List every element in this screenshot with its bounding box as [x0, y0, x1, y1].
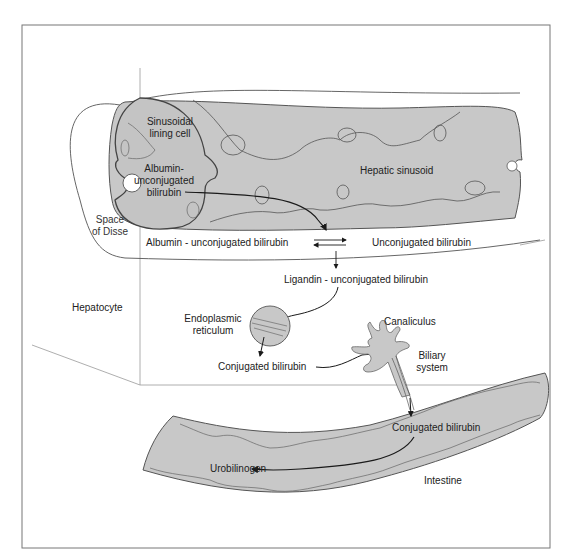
endoplasmic-reticulum [250, 306, 290, 346]
label-albumin-unconjugated-in-cell: Albumin- unconjugated bilirubin [133, 163, 195, 199]
label-sinusoidal-lining-cell: Sinusoidal lining cell [140, 116, 200, 140]
canaliculus [352, 320, 410, 397]
label-hepatic-sinusoid: Hepatic sinusoid [360, 165, 433, 177]
label-endoplasmic-reticulum: Endoplasmic reticulum [180, 313, 246, 337]
label-hepatocyte: Hepatocyte [72, 302, 123, 314]
label-ligandin-unconjugated: Ligandin - unconjugated bilirubin [284, 274, 428, 286]
equilibrium-arrows [314, 240, 346, 245]
label-space-of-disse: Space of Disse [88, 214, 132, 238]
label-urobilinogen: Urobilinogen [210, 463, 266, 475]
label-conjugated-bilirubin-intestine: Conjugated bilirubin [392, 422, 480, 434]
label-albumin-unconjugated: Albumin - unconjugated bilirubin [146, 237, 288, 249]
label-intestine: Intestine [424, 475, 462, 487]
label-canaliculus: Canaliculus [384, 316, 436, 328]
label-conjugated-bilirubin-er: Conjugated bilirubin [218, 361, 306, 373]
label-biliary-system: Biliary system [412, 350, 452, 374]
label-unconjugated-bilirubin: Unconjugated bilirubin [372, 237, 471, 249]
